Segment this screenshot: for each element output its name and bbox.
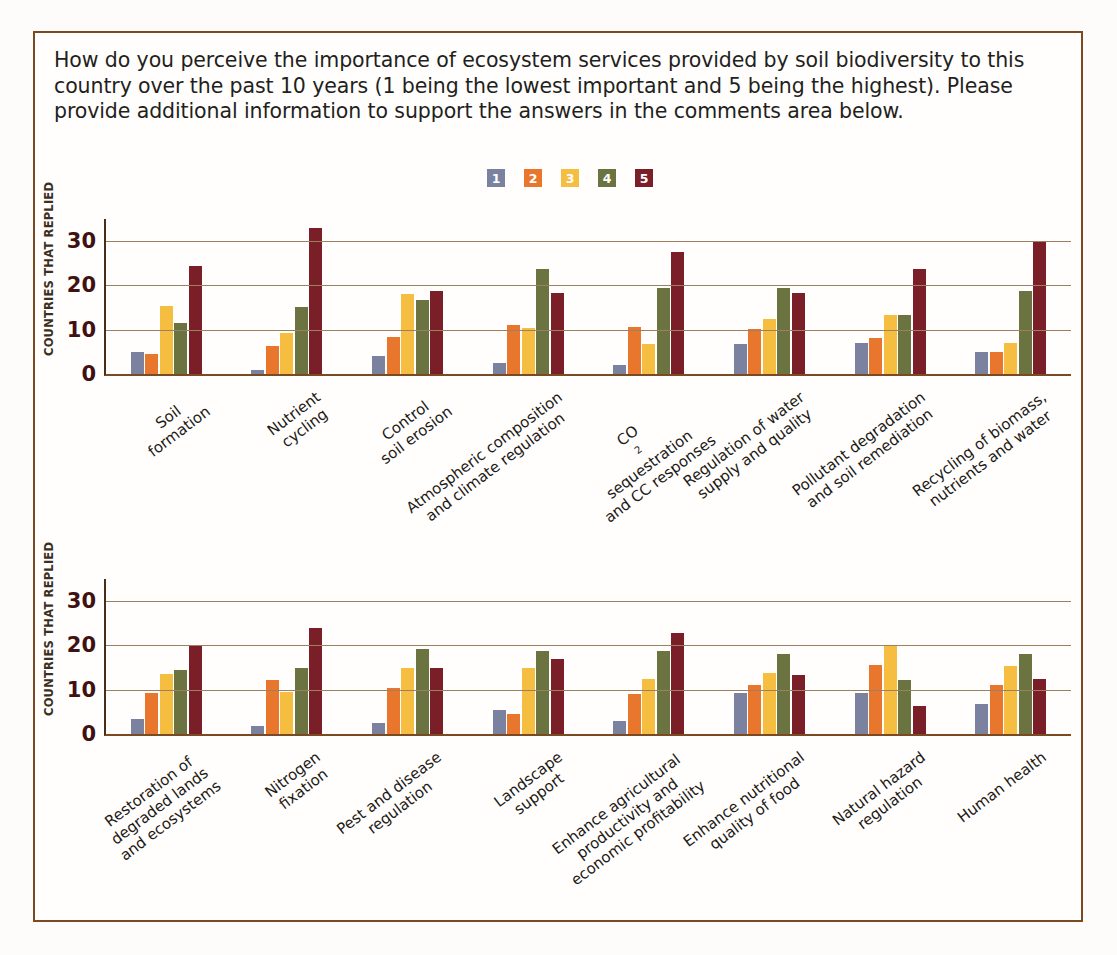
x-axis-label: Landscapesupport [491, 748, 577, 825]
gridline [106, 285, 1071, 286]
bar-group [372, 219, 443, 374]
bar-group [734, 219, 805, 374]
x-axis-label: Human health [954, 748, 1050, 826]
gridline [106, 330, 1071, 331]
y-tick-label: 30 [67, 591, 96, 612]
y-tick-label: 10 [67, 679, 96, 700]
gridline [106, 645, 1071, 646]
bar [372, 723, 385, 734]
question-text: How do you perceive the importance of ec… [54, 48, 1039, 125]
x-axis-labels-2: Restoration ofdegraded landsand ecosyste… [104, 744, 1071, 874]
x-axis-label: Restoration ofdegraded landsand ecosyste… [95, 748, 225, 864]
x-axis-label: Enhance nutritionalquality of food [680, 748, 819, 865]
bar [657, 288, 670, 374]
bar [401, 668, 414, 734]
bar [869, 665, 882, 734]
x-axis-label: Controlsoil erosion [366, 388, 456, 468]
chart-panel-2: COUNTRIES THAT REPLIED 0102030 Restorati… [36, 556, 1081, 886]
y-tick-label: 0 [81, 364, 96, 385]
bar-group [855, 579, 926, 734]
bar [628, 327, 641, 374]
gridline [106, 690, 1071, 691]
bar [189, 266, 202, 375]
bar [280, 692, 293, 734]
x-axis-labels-1: SoilformationNutrientcyclingControlsoil … [104, 384, 1071, 514]
bar [792, 293, 805, 374]
bar [493, 710, 506, 734]
bar-groups-2 [106, 579, 1071, 734]
y-axis-ticks-1: 0102030 [60, 219, 102, 374]
bar [160, 674, 173, 734]
bar [657, 651, 670, 734]
bar-group [493, 579, 564, 734]
x-axis-label: Nitrogenfixation [262, 748, 335, 816]
y-tick-label: 10 [67, 319, 96, 340]
bar [1033, 242, 1046, 374]
y-tick-label: 20 [67, 635, 96, 656]
legend-swatch-4: 4 [598, 169, 616, 187]
bar [131, 352, 144, 374]
bar [1004, 666, 1017, 734]
bar [145, 693, 158, 734]
bar-group [493, 219, 564, 374]
bar [551, 659, 564, 734]
bar [628, 694, 641, 734]
y-tick-label: 20 [67, 275, 96, 296]
bar [748, 329, 761, 374]
chart-page: How do you perceive the importance of ec… [0, 0, 1117, 955]
legend-swatch-5: 5 [635, 169, 653, 187]
bar [975, 704, 988, 734]
bar [777, 654, 790, 734]
bar [642, 344, 655, 374]
bar [251, 370, 264, 374]
bar-group [855, 219, 926, 374]
bar-group [131, 579, 202, 734]
bar [763, 673, 776, 734]
bar [309, 228, 322, 374]
bar-groups-1 [106, 219, 1071, 374]
gridline [106, 241, 1071, 242]
bar [387, 337, 400, 374]
bar [536, 651, 549, 734]
bar [1019, 291, 1032, 374]
bar [131, 719, 144, 734]
bar [990, 685, 1003, 734]
plot-area-2 [104, 579, 1071, 736]
bar [430, 291, 443, 374]
y-tick-label: 30 [67, 231, 96, 252]
x-axis-label: Soilformation [134, 388, 214, 461]
bar [855, 343, 868, 374]
legend: 12345 [487, 169, 653, 187]
x-axis-label: CO2 sequestrationand CC responses [568, 388, 719, 527]
bar-group [251, 219, 322, 374]
bar [642, 679, 655, 734]
bar [416, 649, 429, 734]
bar [855, 693, 868, 734]
bar [898, 315, 911, 374]
bar [266, 346, 279, 374]
y-axis-title-1: COUNTRIES THAT REPLIED [42, 196, 56, 356]
bar-group [131, 219, 202, 374]
bar-group [372, 579, 443, 734]
y-axis-title-2: COUNTRIES THAT REPLIED [42, 556, 56, 716]
bar [763, 319, 776, 374]
x-axis-label: Pest and diseaseregulation [333, 748, 455, 853]
x-axis-label: Nutrientcycling [264, 388, 335, 454]
bar [493, 363, 506, 374]
bar-group [975, 579, 1046, 734]
bar [869, 338, 882, 374]
bar-group [251, 579, 322, 734]
bar [401, 294, 414, 374]
bar [748, 685, 761, 734]
bar [145, 354, 158, 374]
bar [372, 356, 385, 374]
y-axis-ticks-2: 0102030 [60, 579, 102, 734]
bar [1004, 343, 1017, 374]
chart-panel-1: COUNTRIES THAT REPLIED 0102030 Soilforma… [36, 196, 1081, 516]
bar-group [734, 579, 805, 734]
bar-group [975, 219, 1046, 374]
bar [387, 688, 400, 735]
bar [507, 325, 520, 374]
plot-area-1 [104, 219, 1071, 376]
bar [295, 668, 308, 734]
